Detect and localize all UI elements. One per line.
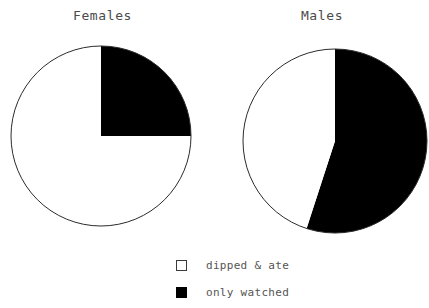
legend-item-dipped-ate: dipped & ate: [176, 252, 346, 279]
pie-females: [0, 38, 205, 248]
legend-label-only-watched: only watched: [206, 286, 289, 299]
chart-legend: dipped & ate only watched: [176, 252, 346, 306]
legend-item-only-watched: only watched: [176, 279, 346, 306]
black-square-icon: [176, 287, 187, 298]
pie-slice-only-watched-females: [101, 46, 191, 136]
chart-title-males: Males: [215, 8, 429, 23]
chart-title-females: Females: [0, 8, 205, 23]
chart-males: Males: [215, 0, 429, 248]
white-square-icon: [176, 260, 187, 271]
pie-chart-figure: Females Males dipped & ate only: [0, 0, 429, 308]
chart-females: Females: [0, 0, 205, 248]
legend-label-dipped-ate: dipped & ate: [206, 259, 289, 272]
pie-males: [215, 41, 429, 248]
